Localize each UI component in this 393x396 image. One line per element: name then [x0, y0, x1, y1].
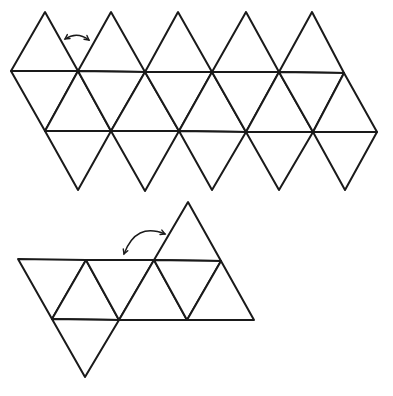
icosahedron-net-diagram: [0, 0, 393, 396]
triangle-face-apex: [154, 202, 221, 261]
triangle-face-cap-top: [78, 12, 145, 72]
partial-net: [18, 202, 254, 377]
triangle-face-cap-bottom: [179, 131, 246, 190]
triangle-face-cap-bottom: [313, 132, 377, 190]
fold-arrow-top: [65, 35, 89, 40]
triangle-face-cap-bottom: [45, 131, 111, 190]
triangle-face-cap-top: [145, 12, 212, 72]
triangle-face-cap-bottom: [246, 132, 313, 190]
triangle-face-bottom: [52, 319, 119, 377]
triangle-face-cap-bottom: [111, 131, 179, 191]
triangle-face-cap-top: [212, 12, 279, 72]
triangle-face-cap-top: [279, 12, 344, 73]
triangle-face-cap-top: [11, 12, 78, 71]
